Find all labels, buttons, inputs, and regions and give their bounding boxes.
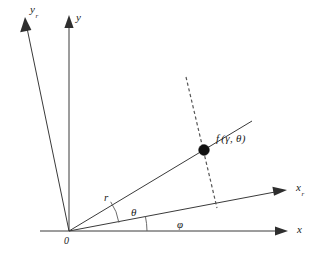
perpendicular-dashed-line — [186, 77, 217, 208]
x-rotated-axis-arrowhead — [272, 187, 287, 196]
polar-coordinate-figure: yr y xr x 0 r θ φ f(γ, θ) — [0, 0, 316, 263]
y-rotated-axis-label-subscript: r — [35, 12, 38, 20]
phi-angle-arc — [145, 216, 147, 231]
phi-angle-label: φ — [177, 219, 183, 230]
y-rotated-axis-label: yr — [30, 4, 38, 18]
point-label-arguments: (γ, θ) — [221, 132, 245, 144]
x-rotated-axis-line — [69, 192, 275, 231]
x-axis-label: x — [297, 224, 302, 235]
y-axis-label: y — [76, 12, 81, 23]
x-axis-group — [40, 227, 288, 236]
y-axis-group — [64, 15, 73, 231]
origin-label: 0 — [64, 236, 69, 246]
y-axis-arrowhead — [64, 15, 73, 28]
y-rotated-axis-line — [27, 28, 69, 231]
data-point-marker — [199, 145, 210, 156]
x-rotated-axis-label: xr — [296, 182, 304, 196]
point-label: f(γ, θ) — [216, 133, 246, 144]
x-rotated-axis-label-subscript: r — [301, 190, 304, 198]
y-rotated-axis-group — [20, 17, 69, 231]
point-label-function: f — [216, 132, 219, 144]
radius-label: r — [104, 192, 108, 203]
figure-canvas — [0, 0, 316, 263]
x-axis-arrowhead — [275, 227, 288, 236]
y-rotated-axis-arrowhead — [20, 17, 31, 32]
theta-angle-label: θ — [131, 207, 136, 218]
